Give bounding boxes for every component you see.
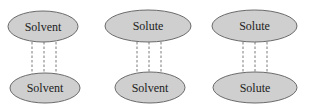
group-solute-solvent: Solute Solvent bbox=[105, 10, 191, 103]
top-molecule-label: Solute bbox=[133, 19, 164, 33]
top-molecule-label: Solvent bbox=[25, 20, 62, 34]
bottom-molecule-label: Solvent bbox=[132, 81, 169, 95]
interaction-lines bbox=[32, 42, 56, 74]
group-solute-solute: Solute Solute bbox=[212, 10, 297, 103]
bottom-molecule-label: Solvent bbox=[27, 81, 64, 95]
interaction-lines bbox=[137, 42, 161, 74]
interaction-lines bbox=[243, 42, 267, 73]
top-molecule-label: Solute bbox=[239, 19, 270, 33]
bottom-molecule-label: Solute bbox=[240, 81, 271, 95]
group-solvent-solvent: Solvent Solvent bbox=[8, 11, 80, 103]
interaction-diagram: Solvent Solvent Solute Solvent Solute So… bbox=[0, 0, 311, 108]
